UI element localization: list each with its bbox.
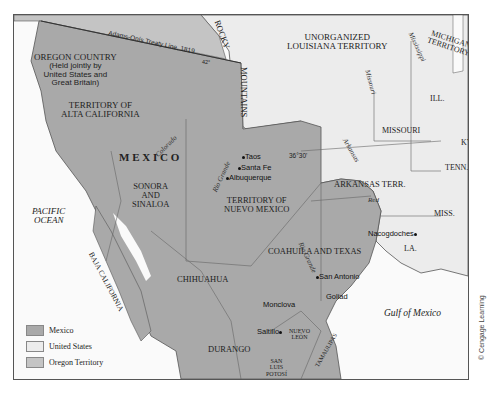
gulf-of-mexico-label: Gulf of Mexico xyxy=(384,309,441,319)
city-monclova: Monclova xyxy=(263,300,295,309)
kentucky-label: KY. xyxy=(461,139,469,147)
legend-swatch xyxy=(26,357,44,368)
city-nacogdoches: Nacogdoches xyxy=(368,229,417,238)
durango-label: DURANGO xyxy=(208,345,251,354)
pacific-ocean-label: PACIFIC OCEAN xyxy=(32,207,65,226)
legend-swatch xyxy=(26,325,44,336)
parallel-42-label: 42° xyxy=(202,60,210,66)
alta-california-label: TERRITORY OF ALTA CALIFORNIA xyxy=(61,101,140,120)
mexico-label: M E X I C O xyxy=(119,152,179,164)
coahuila-texas-label: COAHUILA AND TEXAS xyxy=(268,247,361,256)
nuevo-mexico-label: TERRITORY OF NUEVO MEXICO xyxy=(224,196,289,214)
san-luis-potosi-label: SAN LUIS POTOSÍ xyxy=(266,358,287,377)
map-legend: Mexico United States Oregon Territory xyxy=(26,325,103,373)
map-frame: OREGON COUNTRY (Held jointly by United S… xyxy=(13,14,469,380)
city-saltillo: Saltillo xyxy=(257,327,282,336)
chihuahua-label: CHIHUAHUA xyxy=(177,275,228,284)
copyright-credit: © Cengage Learning xyxy=(478,295,485,360)
legend-item-united-states: United States xyxy=(26,341,103,352)
legend-swatch xyxy=(26,341,44,352)
city-taos: Taos xyxy=(242,152,261,161)
mountains-label: MOUNTAINS xyxy=(239,67,248,117)
louisiana-label: LA. xyxy=(404,245,417,253)
city-dot-icon xyxy=(279,331,282,334)
mississippi-label: MISS. xyxy=(434,210,455,218)
city-goliad: Goliad xyxy=(326,292,348,301)
city-dot-icon xyxy=(414,233,417,236)
city-san-antonio: San Antonio xyxy=(316,272,359,281)
legend-item-oregon-territory: Oregon Territory xyxy=(26,357,103,368)
arkansas-label: ARKANSAS TERR. xyxy=(334,180,406,189)
city-albuquerque: Albuquerque xyxy=(226,173,272,182)
sonora-label: SONORA AND SINALOA xyxy=(132,182,169,209)
missouri-label: MISSOURI xyxy=(382,127,420,135)
red-river-label: Red xyxy=(368,196,379,204)
illinois-label: ILL. xyxy=(430,95,444,103)
city-santa-fe: Santa Fe xyxy=(238,163,271,172)
tennessee-label: TENN. xyxy=(445,164,468,172)
nuevo-leon-label: NUEVO LEÓN xyxy=(289,328,310,341)
unorganized-louisiana-label: UNORGANIZED LOUISIANA TERRITORY xyxy=(287,33,387,52)
legend-item-mexico: Mexico xyxy=(26,325,103,336)
parallel-36-label: 36°30' xyxy=(289,153,307,160)
oregon-country-label: OREGON COUNTRY (Held jointly by United S… xyxy=(34,53,117,88)
